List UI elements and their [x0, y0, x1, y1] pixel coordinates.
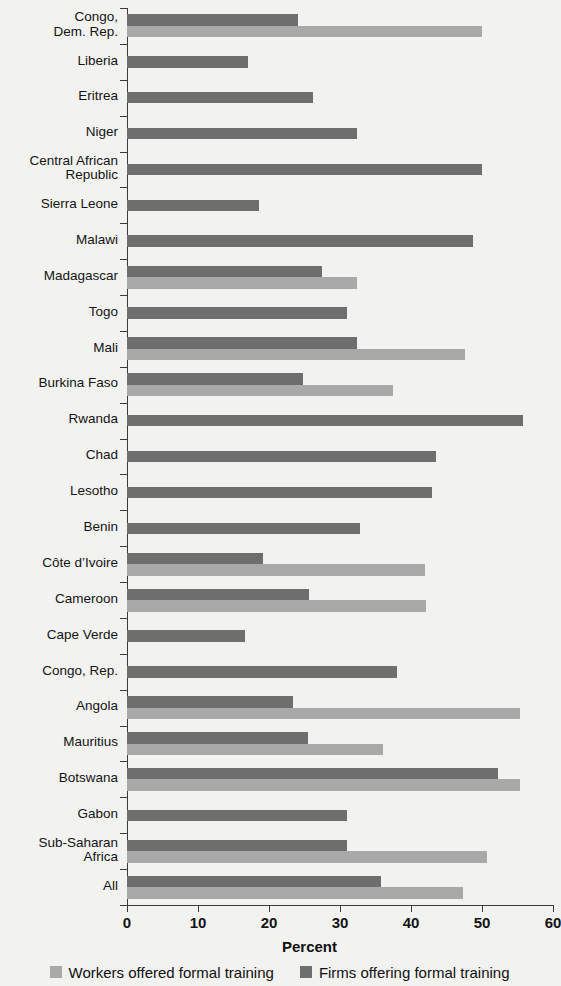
bar-firms: [127, 840, 347, 852]
bar-firms: [127, 630, 245, 642]
bar-workers: [127, 708, 520, 720]
x-axis-tick: [198, 905, 199, 912]
x-axis-tick: [553, 905, 554, 912]
y-axis-tick: [120, 582, 127, 583]
y-axis-category-label: Liberia: [0, 54, 118, 69]
y-axis-tick: [120, 905, 127, 906]
bar-workers: [127, 385, 393, 397]
x-axis-tick-label: 10: [190, 914, 207, 931]
y-axis-category-label: All: [0, 879, 118, 894]
bar-workers: [127, 744, 383, 756]
bar-firms: [127, 810, 347, 822]
y-axis-category-label: Eritrea: [0, 89, 118, 104]
legend-label-firms: Firms offering formal training: [319, 964, 510, 981]
bar-firms: [127, 415, 523, 427]
y-axis-tick: [120, 44, 127, 45]
legend-item-firms: Firms offering formal training: [300, 964, 510, 981]
bar-workers: [127, 349, 465, 361]
x-axis-tick: [269, 905, 270, 912]
bar-firms: [127, 164, 482, 176]
y-axis-tick: [120, 546, 127, 547]
y-axis-tick: [120, 80, 127, 81]
bar-firms: [127, 696, 293, 708]
y-axis-tick: [120, 8, 127, 9]
y-axis-category-label: Central African Republic: [0, 154, 118, 183]
x-axis-tick-label: 20: [261, 914, 278, 931]
legend-swatch-firms-icon: [300, 966, 312, 978]
y-axis-tick: [120, 403, 127, 404]
bar-workers: [127, 851, 487, 863]
y-axis-category-label: Benin: [0, 520, 118, 535]
y-axis-tick: [120, 331, 127, 332]
y-axis-tick: [120, 797, 127, 798]
y-axis-tick: [120, 510, 127, 511]
bar-workers: [127, 26, 482, 38]
y-axis-category-label: Botswana: [0, 771, 118, 786]
x-axis-tick-label: 60: [545, 914, 561, 931]
x-axis-tick-label: 0: [123, 914, 131, 931]
y-axis-tick: [120, 654, 127, 655]
y-axis-category-label: Togo: [0, 305, 118, 320]
legend-label-workers: Workers offered formal training: [69, 964, 274, 981]
bar-firms: [127, 200, 259, 212]
bar-firms: [127, 768, 498, 780]
bar-firms: [127, 14, 298, 26]
y-axis-category-label: Cameroon: [0, 592, 118, 607]
y-axis-category-label: Congo, Rep.: [0, 664, 118, 679]
y-axis-tick: [120, 223, 127, 224]
y-axis-tick: [120, 726, 127, 727]
y-axis-tick: [120, 187, 127, 188]
bar-workers: [127, 564, 425, 576]
plot-area: Congo, Dem. Rep.LiberiaEritreaNigerCentr…: [127, 8, 553, 905]
bar-firms: [127, 451, 436, 463]
y-axis-tick: [120, 259, 127, 260]
chart-legend: Workers offered formal training Firms of…: [0, 960, 559, 984]
y-axis-tick: [120, 367, 127, 368]
y-axis-tick: [120, 474, 127, 475]
y-axis-category-label: Gabon: [0, 807, 118, 822]
y-axis-category-label: Sierra Leone: [0, 197, 118, 212]
y-axis-tick: [120, 439, 127, 440]
y-axis-tick: [120, 869, 127, 870]
y-axis-category-label: Côte d’Ivoire: [0, 556, 118, 571]
x-axis-tick-label: 40: [403, 914, 420, 931]
bar-firms: [127, 128, 357, 140]
y-axis-category-label: Lesotho: [0, 484, 118, 499]
y-axis-category-label: Malawi: [0, 233, 118, 248]
bar-workers: [127, 600, 426, 612]
bar-firms: [127, 732, 308, 744]
legend-swatch-workers-icon: [50, 966, 62, 978]
y-axis-tick: [120, 116, 127, 117]
y-axis-tick: [120, 833, 127, 834]
bar-firms: [127, 56, 248, 68]
y-axis-category-label: Chad: [0, 448, 118, 463]
x-axis-tick: [127, 905, 128, 912]
y-axis-tick: [120, 152, 127, 153]
bar-firms: [127, 487, 432, 499]
bar-firms: [127, 523, 360, 535]
bar-firms: [127, 235, 473, 247]
bar-firms: [127, 92, 313, 104]
bar-firms: [127, 266, 322, 278]
bar-firms: [127, 876, 381, 888]
y-axis-category-label: Sub-Saharan Africa: [0, 836, 118, 865]
bar-firms: [127, 589, 309, 601]
y-axis-category-label: Angola: [0, 699, 118, 714]
y-axis-category-label: Rwanda: [0, 412, 118, 427]
y-axis-tick: [120, 690, 127, 691]
bar-firms: [127, 373, 303, 385]
bar-workers: [127, 277, 357, 289]
bar-workers: [127, 887, 463, 899]
x-axis-title-text: Percent: [282, 938, 337, 955]
y-axis-category-label: Niger: [0, 125, 118, 140]
y-axis-category-label: Burkina Faso: [0, 376, 118, 391]
x-axis-tick: [340, 905, 341, 912]
x-axis-tick: [411, 905, 412, 912]
y-axis-category-label: Congo, Dem. Rep.: [0, 10, 118, 39]
bar-workers: [127, 779, 520, 791]
x-axis-tick: [482, 905, 483, 912]
x-axis-tick-label: 50: [474, 914, 491, 931]
y-axis-category-label: Mali: [0, 341, 118, 356]
bar-firms: [127, 307, 347, 319]
